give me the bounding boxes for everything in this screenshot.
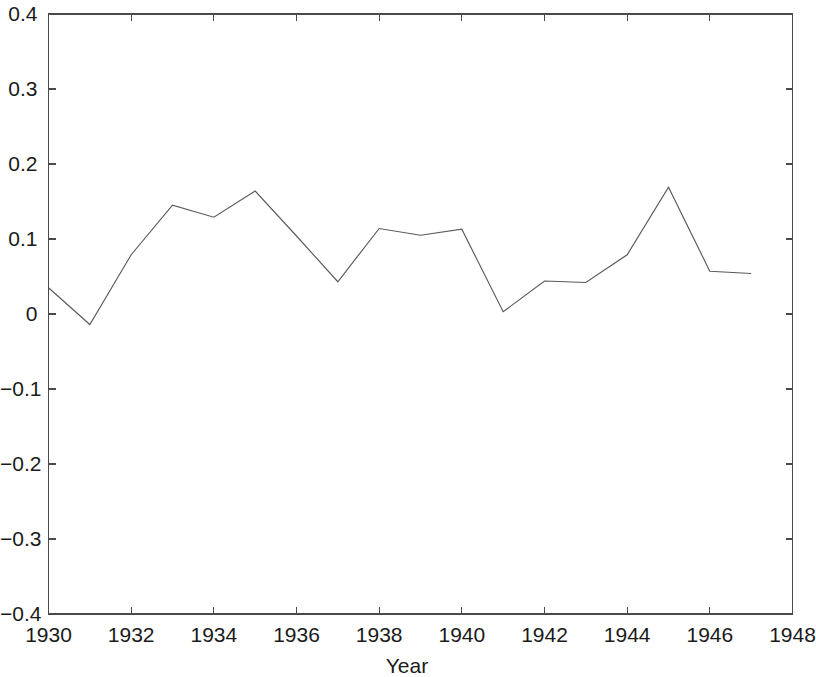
axes-frame — [49, 14, 793, 614]
y-tick-label: −0.1 — [0, 377, 38, 401]
y-tick-label: 0 — [0, 302, 38, 326]
x-tick-label: 1948 — [769, 623, 816, 647]
y-tick-label: 0.2 — [0, 152, 38, 176]
y-tick-label: −0.3 — [0, 527, 38, 551]
x-tick-label: 1932 — [108, 623, 155, 647]
x-tick-label: 1938 — [356, 623, 403, 647]
x-axis-title: Year — [0, 654, 814, 677]
data-line-series-1 — [49, 187, 752, 324]
y-tick-label: 0.4 — [0, 2, 38, 26]
x-tick-label: 1944 — [604, 623, 651, 647]
axes-box — [49, 14, 793, 614]
x-tick-label: 1930 — [25, 623, 72, 647]
data-series-group — [49, 187, 752, 324]
x-tick-label: 1940 — [438, 623, 485, 647]
x-tick-label: 1934 — [190, 623, 237, 647]
y-tick-label: 0.1 — [0, 227, 38, 251]
y-tick-label: 0.3 — [0, 77, 38, 101]
y-axis-ticks — [49, 14, 793, 614]
y-tick-label: −0.2 — [0, 452, 38, 476]
x-tick-label: 1942 — [521, 623, 568, 647]
x-tick-label: 1936 — [273, 623, 320, 647]
x-axis-ticks — [49, 14, 793, 614]
x-tick-label: 1946 — [686, 623, 733, 647]
